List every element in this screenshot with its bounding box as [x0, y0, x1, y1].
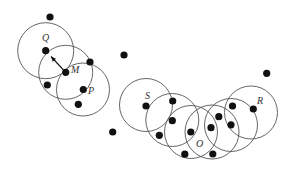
data-point	[109, 128, 116, 135]
data-point	[227, 121, 234, 128]
data-point	[75, 101, 82, 108]
data-point	[209, 150, 216, 157]
label-m: M	[70, 64, 80, 75]
data-point	[86, 58, 93, 65]
eps-circle-r	[225, 86, 278, 139]
label-s: S	[145, 90, 150, 101]
data-point	[44, 81, 51, 88]
data-point	[207, 124, 214, 131]
data-point	[42, 47, 49, 54]
label-q: Q	[42, 32, 50, 43]
data-point	[169, 117, 176, 124]
data-point	[142, 102, 149, 109]
data-point	[215, 113, 222, 120]
data-points	[42, 13, 270, 157]
data-point	[156, 132, 163, 139]
data-point	[62, 69, 69, 76]
label-o: O	[196, 138, 203, 149]
label-r: R	[256, 95, 263, 106]
data-point	[250, 105, 257, 112]
data-point	[229, 102, 236, 109]
data-point	[46, 13, 53, 20]
data-point	[181, 151, 188, 158]
data-point	[80, 86, 87, 93]
data-point	[263, 70, 270, 77]
label-p: P	[87, 85, 94, 96]
dbscan-neighborhood-diagram: Q M P S O R	[0, 0, 289, 171]
data-point	[120, 51, 127, 58]
data-point	[169, 97, 176, 104]
data-point	[187, 128, 194, 135]
point-labels: Q M P S O R	[42, 32, 263, 149]
